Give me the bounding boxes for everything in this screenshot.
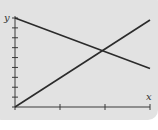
decreasing-line — [15, 18, 150, 68]
line-chart: y x — [0, 0, 158, 130]
x-axis-label: x — [146, 91, 152, 102]
y-axis-label: y — [3, 12, 10, 23]
increasing-line — [15, 20, 150, 107]
series-lines — [15, 18, 150, 107]
